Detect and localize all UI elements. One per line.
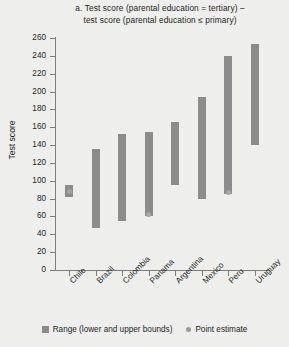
- y-tick-label: 160: [12, 122, 46, 131]
- y-tick-label: 20: [12, 247, 46, 256]
- x-tick: [149, 271, 150, 276]
- y-tick: [50, 252, 55, 253]
- legend-item-range: Range (lower and upper bounds): [42, 325, 173, 334]
- x-tick: [255, 271, 256, 276]
- y-tick: [50, 145, 55, 146]
- y-tick: [50, 181, 55, 182]
- y-tick-label: 0: [12, 265, 46, 274]
- range-bar-colombia: [118, 134, 126, 221]
- y-tick: [50, 92, 55, 93]
- y-tick-label: 180: [12, 104, 46, 113]
- range-bar-peru: [224, 56, 232, 194]
- y-tick-label: 100: [12, 176, 46, 185]
- y-tick-label: 140: [12, 140, 46, 149]
- y-tick: [50, 109, 55, 110]
- range-bar-brazil: [92, 149, 100, 228]
- y-tick-label: 40: [12, 229, 46, 238]
- legend-item-point-estimate: Point estimate: [186, 325, 247, 334]
- range-bar-mexico: [198, 97, 206, 199]
- legend-label-point-estimate: Point estimate: [195, 325, 247, 334]
- panel-label: a.: [75, 3, 82, 13]
- x-tick: [202, 271, 203, 276]
- y-tick: [50, 38, 55, 39]
- y-tick: [50, 199, 55, 200]
- range-bar-uruguay: [251, 44, 259, 145]
- y-tick-label: 120: [12, 158, 46, 167]
- point-estimate-swatch-icon: [186, 327, 191, 332]
- chart-figure: a. Test score (parental education = tert…: [0, 0, 289, 347]
- y-tick: [50, 56, 55, 57]
- range-bar-argentina: [171, 122, 179, 185]
- y-tick: [50, 127, 55, 128]
- y-tick-label: 80: [12, 194, 46, 203]
- y-tick-label: 220: [12, 69, 46, 78]
- range-bar-panama: [145, 132, 153, 217]
- y-tick: [50, 74, 55, 75]
- y-tick: [50, 216, 55, 217]
- legend-label-range: Range (lower and upper bounds): [53, 325, 173, 334]
- chart-title: a. Test score (parental education = tert…: [40, 3, 280, 26]
- x-tick: [96, 271, 97, 276]
- y-tick-label: 60: [12, 211, 46, 220]
- plot-area: [56, 38, 268, 270]
- range-swatch-icon: [42, 326, 49, 333]
- y-tick-label: 260: [12, 33, 46, 42]
- chart-title-line1: Test score (parental education = tertiar…: [85, 3, 245, 13]
- point-estimate-peru: [226, 190, 231, 195]
- y-tick: [50, 270, 55, 271]
- y-tick: [50, 163, 55, 164]
- y-tick: [50, 234, 55, 235]
- y-tick-label: 240: [12, 51, 46, 60]
- y-tick-label: 200: [12, 87, 46, 96]
- chart-title-line2: test score (parental education ≤ primary…: [84, 15, 237, 25]
- point-estimate-chile: [67, 189, 72, 194]
- chart-legend: Range (lower and upper bounds) Point est…: [0, 325, 289, 334]
